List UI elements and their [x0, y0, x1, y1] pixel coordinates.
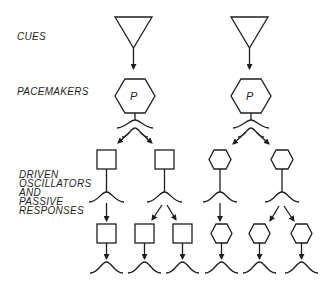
oscillation-wave-icon	[117, 120, 153, 128]
oscillation-wave-icon	[128, 262, 161, 273]
passive-response-square-icon	[173, 224, 192, 243]
arrow	[284, 206, 294, 221]
passive-response-hexagon-icon	[211, 224, 232, 243]
diagram-canvas: P P	[0, 0, 332, 289]
passive-response-hexagon-icon	[249, 224, 270, 243]
right-hierarchy: P	[203, 17, 318, 273]
oscillation-wave-icon	[205, 262, 238, 273]
driven-oscillator-square-icon	[97, 150, 116, 169]
arrow	[118, 132, 130, 143]
driven-oscillator-square-icon	[155, 150, 174, 169]
pacemaker-label: P	[246, 90, 254, 102]
cue-triangle-icon	[115, 17, 152, 48]
oscillation-wave-icon	[243, 262, 276, 273]
oscillation-wave-icon	[285, 262, 318, 273]
oscillation-wave-icon	[166, 262, 199, 273]
oscillation-wave-icon	[233, 120, 269, 128]
oscillation-wave-icon	[265, 192, 299, 202]
oscillation-wave-icon	[203, 192, 237, 202]
passive-response-hexagon-icon	[291, 224, 312, 243]
cue-triangle-icon	[231, 17, 268, 48]
oscillation-wave-icon	[90, 262, 123, 273]
arrow	[167, 205, 176, 220]
arrow	[140, 132, 152, 143]
oscillation-wave-icon	[89, 192, 124, 202]
arrow	[233, 132, 246, 144]
driven-oscillator-hexagon-icon	[271, 150, 293, 169]
left-hierarchy: P	[89, 17, 199, 273]
arrow	[270, 206, 279, 221]
oscillation-wave-icon	[147, 192, 182, 202]
pacemaker-label: P	[130, 90, 138, 102]
passive-response-square-icon	[97, 224, 116, 243]
arrow	[152, 205, 162, 220]
passive-response-square-icon	[135, 224, 154, 243]
driven-oscillator-hexagon-icon	[209, 150, 231, 169]
arrow	[256, 132, 269, 144]
